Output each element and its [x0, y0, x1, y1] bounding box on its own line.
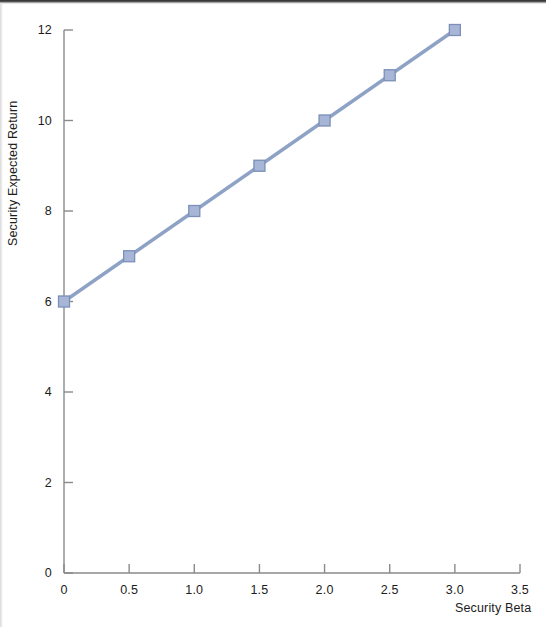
y-axis-tick-label: 0 [24, 566, 52, 580]
x-axis-tick-label: 2.5 [381, 583, 399, 597]
x-axis-tick-label: 1.5 [250, 583, 268, 597]
data-point-marker [59, 296, 70, 307]
data-series-group [59, 25, 461, 308]
x-axis-tick-label: 2.0 [316, 583, 334, 597]
x-axis-tick-label: 3.5 [511, 583, 529, 597]
x-axis-tick-label: 0.5 [120, 583, 138, 597]
x-axis-tick-label: 3.0 [446, 583, 464, 597]
y-axis-tick-label: 12 [24, 23, 52, 37]
data-point-marker [319, 115, 330, 126]
y-axis-tick-label: 2 [24, 476, 52, 490]
x-axis-ticks [64, 564, 520, 573]
x-axis-tick-label: 1.0 [185, 583, 203, 597]
x-axis-title: Security Beta [455, 601, 531, 615]
x-axis-tick-label: 0 [60, 583, 67, 597]
security-market-line-chart: 024681012 00.51.01.52.02.53.03.5 Securit… [0, 0, 546, 627]
y-axis-tick-label: 6 [24, 295, 52, 309]
data-point-marker [124, 251, 135, 262]
data-point-marker [254, 160, 265, 171]
y-axis-title: Security Expected Return [6, 228, 20, 246]
data-point-marker [449, 25, 460, 36]
axis-lines [64, 30, 520, 573]
data-point-marker [384, 70, 395, 81]
y-axis-tick-label: 8 [24, 204, 52, 218]
data-point-marker [189, 206, 200, 217]
y-axis-tick-label: 4 [24, 385, 52, 399]
y-axis-tick-label: 10 [24, 114, 52, 128]
plot-area-svg [0, 0, 546, 627]
